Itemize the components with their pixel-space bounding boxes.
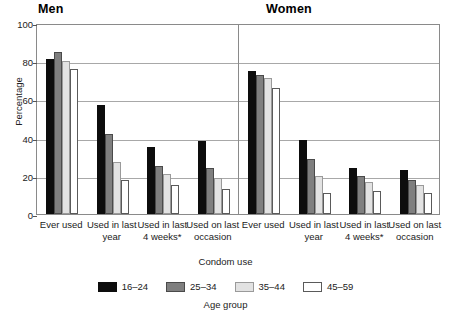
- bar-group: [88, 25, 139, 214]
- legend-swatch: [98, 282, 117, 292]
- bar: [264, 78, 272, 214]
- y-axis-tick-label: 20: [22, 173, 33, 183]
- bar: [62, 61, 70, 214]
- bar-group: [391, 25, 442, 214]
- bar: [408, 180, 416, 214]
- legend-label: 35–44: [259, 281, 285, 292]
- legend-title: Age group: [0, 299, 451, 310]
- bar: [349, 168, 357, 214]
- bar: [214, 178, 222, 214]
- bar: [315, 176, 323, 214]
- y-axis-tick-label: 100: [17, 20, 33, 30]
- bar: [400, 170, 408, 214]
- bar: [357, 176, 365, 214]
- bar: [248, 71, 256, 214]
- bar-group: [340, 25, 391, 214]
- bar: [171, 185, 179, 214]
- bar: [373, 191, 381, 214]
- bar: [54, 52, 62, 214]
- bar: [163, 174, 171, 214]
- legend-label: 16–24: [122, 281, 148, 292]
- bar: [307, 159, 315, 214]
- y-axis-tick-label: 60: [22, 97, 33, 107]
- bar: [416, 185, 424, 214]
- chart-figure: Men Women Percentage 020406080100 Ever u…: [0, 0, 451, 318]
- bar-group: [239, 25, 290, 214]
- plot-area: 020406080100: [36, 24, 440, 215]
- y-axis-tick-label: 40: [22, 135, 33, 145]
- legend-item[interactable]: 16–24: [98, 281, 148, 292]
- bar: [272, 88, 280, 214]
- legend-item[interactable]: 25–34: [166, 281, 216, 292]
- legend-swatch: [166, 282, 185, 292]
- bar: [155, 166, 163, 214]
- y-axis-tick-label: 80: [22, 58, 33, 68]
- bar: [206, 168, 214, 214]
- bar: [46, 59, 54, 214]
- x-axis-tick-label: Used in last 4 weeks*: [135, 219, 189, 242]
- x-axis-tick-label: Ever used: [236, 219, 290, 231]
- legend-item[interactable]: 45–59: [303, 281, 353, 292]
- x-axis-tick-label: Used in last year: [287, 219, 341, 242]
- bar: [121, 180, 129, 214]
- legend-label: 25–34: [190, 281, 216, 292]
- bar-group: [138, 25, 189, 214]
- panel-title-women: Women: [266, 2, 312, 16]
- legend-item[interactable]: 35–44: [235, 281, 285, 292]
- bar-group: [189, 25, 240, 214]
- bar: [70, 69, 78, 214]
- x-axis-tick-label: Used on last occasion: [186, 219, 240, 242]
- x-axis-tick-label: Ever used: [34, 219, 88, 231]
- legend-swatch: [235, 282, 254, 292]
- bar-group: [37, 25, 88, 214]
- bar: [222, 189, 230, 214]
- panel-title-men: Men: [38, 2, 64, 16]
- x-axis-tick-label: Used on last occasion: [388, 219, 442, 242]
- x-axis-tick-label: Used in last 4 weeks*: [337, 219, 391, 242]
- legend-swatch: [303, 282, 322, 292]
- bar: [256, 75, 264, 214]
- bar: [113, 162, 121, 214]
- bar: [323, 193, 331, 214]
- bar-group: [290, 25, 341, 214]
- y-axis-tick-mark: [33, 216, 37, 217]
- bar: [147, 147, 155, 214]
- legend-label: 45–59: [327, 281, 353, 292]
- bar: [105, 134, 113, 214]
- bar: [365, 182, 373, 214]
- chart-legend: 16–2425–3435–4445–59: [0, 281, 451, 292]
- x-axis-title: Condom use: [0, 256, 451, 267]
- x-axis-tick-label: Used in last year: [85, 219, 139, 242]
- bar: [299, 140, 307, 214]
- bar: [424, 193, 432, 214]
- bar: [97, 105, 105, 214]
- bar: [198, 141, 206, 214]
